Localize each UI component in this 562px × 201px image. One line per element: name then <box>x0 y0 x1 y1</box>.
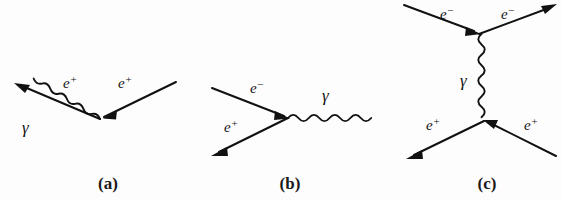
outgoing-electron-arrowhead <box>541 4 557 14</box>
incoming-positron-arrowhead <box>103 111 117 120</box>
incoming-electron-label: e− <box>440 4 454 22</box>
diagram-b-annihilation-photon: γ <box>288 86 371 121</box>
diagram-c-incoming-electron: e− <box>404 4 481 36</box>
exchange-photon-label: γ <box>460 71 468 90</box>
caption-a: (a) <box>98 174 118 193</box>
incoming-positron-label: e+ <box>118 73 132 91</box>
diagram-a: e+ e+ γ (a) <box>14 73 176 193</box>
incoming-positron-line <box>104 82 176 117</box>
outgoing-positron-arrowhead <box>14 83 30 93</box>
incoming-electron-line <box>212 88 284 116</box>
annihilation-photon-label: γ <box>322 86 330 105</box>
outgoing-positron-arrowhead <box>211 147 228 156</box>
incoming-positron-arrowhead <box>483 120 498 129</box>
diagram-a-outgoing-positron: e+ <box>14 73 100 119</box>
outgoing-positron-label: e+ <box>426 115 440 133</box>
diagram-c: e− e− γ e+ e+ <box>404 4 557 193</box>
incoming-electron-label: e− <box>250 78 264 96</box>
outgoing-positron-label: e+ <box>63 73 77 91</box>
diagram-b: e− e+ γ (b) <box>211 78 371 193</box>
diagram-c-incoming-positron: e+ <box>483 115 556 156</box>
caption-b: (b) <box>280 174 301 193</box>
incoming-positron-line <box>490 123 556 156</box>
feynman-diagram-canvas: e+ e+ γ (a) e− <box>0 0 562 201</box>
caption-c: (c) <box>478 174 497 193</box>
diagram-b-outgoing-positron: e+ <box>211 117 288 156</box>
emitted-photon-label: γ <box>22 118 30 137</box>
feynman-diagram-figure: e+ e+ γ (a) e− <box>0 0 562 201</box>
diagram-b-incoming-electron: e− <box>212 78 290 120</box>
incoming-electron-line <box>404 5 474 31</box>
annihilation-photon-wave <box>288 115 371 121</box>
outgoing-electron-label: e− <box>501 4 515 22</box>
outgoing-positron-arrowhead <box>406 150 423 159</box>
diagram-a-incoming-positron: e+ <box>103 73 176 120</box>
exchange-photon-wave <box>478 34 484 117</box>
diagram-c-outgoing-positron: e+ <box>406 115 484 159</box>
outgoing-positron-label: e+ <box>224 117 238 135</box>
diagram-c-outgoing-electron: e− <box>479 4 557 34</box>
outgoing-positron-line <box>414 121 484 155</box>
diagram-c-exchange-photon: γ <box>460 34 485 117</box>
incoming-positron-label: e+ <box>524 115 538 133</box>
